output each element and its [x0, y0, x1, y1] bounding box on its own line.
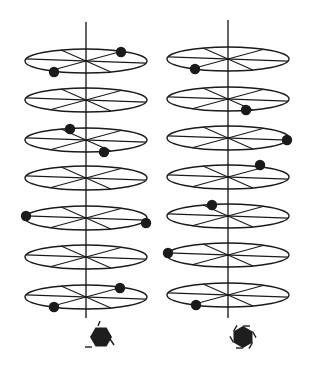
hexagon-marker-icon — [85, 321, 114, 347]
particle-dot — [190, 64, 200, 74]
particle-dot — [99, 147, 109, 157]
particle-dot — [116, 47, 126, 57]
left-ring-column — [21, 22, 151, 347]
particle-dot — [141, 218, 151, 228]
particle-dot — [65, 124, 75, 134]
right-ring-column — [163, 20, 292, 349]
particle-dot — [115, 283, 125, 293]
particle-dot — [21, 211, 31, 221]
particle-dot — [255, 160, 265, 170]
ring-helix-diagram — [0, 0, 310, 372]
particle-dot — [241, 105, 251, 115]
particle-dot — [207, 200, 217, 210]
particle-dot — [282, 135, 292, 145]
particle-dot — [191, 300, 201, 310]
particle-dot — [49, 67, 59, 77]
particle-dot — [163, 248, 173, 258]
hexagon-marker-icon — [230, 325, 256, 348]
particle-dot — [49, 302, 59, 312]
